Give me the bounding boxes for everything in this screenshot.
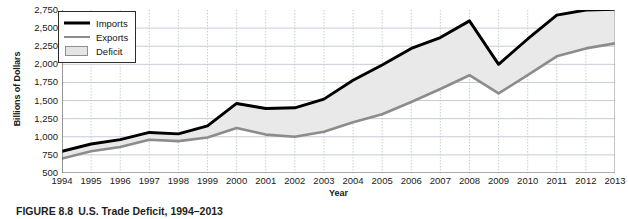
legend-item-imports: Imports <box>64 16 128 30</box>
legend-label-exports: Exports <box>96 32 128 43</box>
legend-label-deficit: Deficit <box>96 46 122 57</box>
figure-title: U.S. Trade Deficit, 1994–2013 <box>78 205 223 217</box>
legend-item-deficit: Deficit <box>64 44 128 58</box>
legend-label-imports: Imports <box>96 18 128 29</box>
y-axis-tick-label: 2,500 <box>20 23 58 33</box>
y-axis-tick-label: 1,250 <box>20 114 58 124</box>
x-axis-title: Year <box>62 188 615 198</box>
figure-number: FIGURE 8.8 <box>16 205 73 217</box>
deficit-swatch-key-icon <box>64 45 90 57</box>
y-axis-tick-label: 2,000 <box>20 59 58 69</box>
y-axis-tick-label: 1,000 <box>20 132 58 142</box>
legend-item-exports: Exports <box>64 30 128 44</box>
figure-container: Billions of Dollars 2,7502,5002,2502,000… <box>0 0 628 219</box>
imports-line-key-icon <box>64 17 90 29</box>
plot-area <box>62 10 615 173</box>
y-axis-tick-labels: 2,7502,5002,2502,0001,7501,5001,2501,000… <box>14 10 58 173</box>
x-axis-tick-label: 2013 <box>598 176 628 186</box>
y-axis-tick-label: 1,500 <box>20 96 58 106</box>
figure-caption: FIGURE 8.8U.S. Trade Deficit, 1994–2013 <box>16 205 223 217</box>
y-axis-tick-label: 2,750 <box>20 5 58 15</box>
chart-svg <box>62 10 615 173</box>
exports-line-key-icon <box>64 31 90 43</box>
y-axis-tick-label: 1,750 <box>20 77 58 87</box>
y-axis-tick-label: 2,250 <box>20 41 58 51</box>
chart-legend: Imports Exports Deficit <box>58 11 136 63</box>
y-axis-tick-label: 750 <box>20 150 58 160</box>
